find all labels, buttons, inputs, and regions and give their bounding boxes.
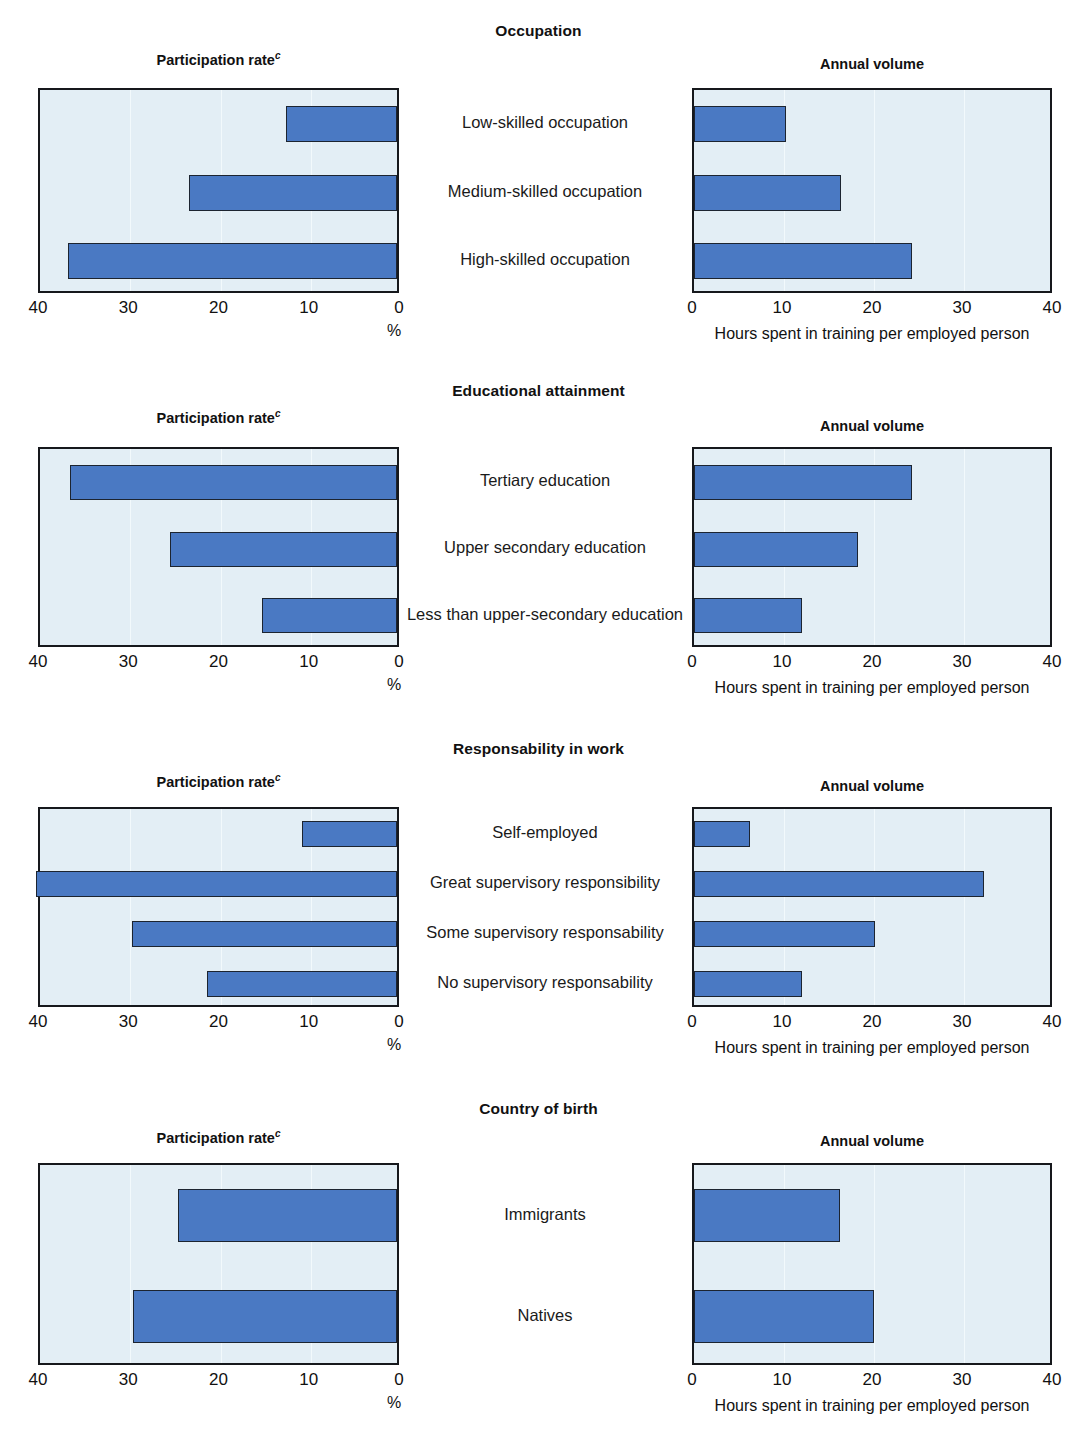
left-x-axis-2: 403020100 xyxy=(38,1012,399,1034)
section-title-3: Country of birth xyxy=(0,1100,1077,1118)
gridline-20 xyxy=(874,1165,875,1363)
bar xyxy=(694,1189,840,1242)
category-label: Some supervisory responsability xyxy=(426,923,664,942)
x-tick-20: 20 xyxy=(863,298,882,318)
bar xyxy=(36,871,397,897)
bar xyxy=(694,465,912,500)
x-tick-40: 40 xyxy=(29,1370,48,1390)
right-axis-caption-1: Hours spent in training per employed per… xyxy=(692,679,1052,697)
left-chart-subtitle-text-2: Participation rate xyxy=(156,774,274,790)
category-label: Less than upper-secondary education xyxy=(407,604,683,623)
x-tick-20: 20 xyxy=(209,652,228,672)
right-x-axis-3: 010203040 xyxy=(692,1370,1052,1392)
left-chart-subtitle-text-3: Participation rate xyxy=(156,1130,274,1146)
gridline-30 xyxy=(130,1165,131,1363)
right-chart-subtitle-0: Annual volume xyxy=(682,56,1062,72)
left-axis-unit-0: % xyxy=(387,322,401,340)
gridline-30 xyxy=(964,809,965,1005)
left-axis-unit-1: % xyxy=(387,676,401,694)
x-tick-40: 40 xyxy=(1043,1012,1062,1032)
gridline-30 xyxy=(964,1165,965,1363)
bar xyxy=(286,106,397,142)
right-chart-subtitle-2: Annual volume xyxy=(682,778,1062,794)
x-tick-10: 10 xyxy=(299,1370,318,1390)
left-chart-subtitle-superscript-1: c xyxy=(275,408,281,419)
category-label: Low-skilled occupation xyxy=(462,113,628,132)
left-axis-unit-3: % xyxy=(387,1394,401,1412)
bar xyxy=(207,971,397,997)
left-x-axis-0: 403020100 xyxy=(38,298,399,320)
x-tick-40: 40 xyxy=(29,1012,48,1032)
x-tick-30: 30 xyxy=(119,1012,138,1032)
right-plot-area-0 xyxy=(692,88,1052,293)
gridline-30 xyxy=(130,809,131,1005)
bar xyxy=(262,598,397,633)
right-plot-area-2 xyxy=(692,807,1052,1007)
bar xyxy=(694,971,802,997)
bar xyxy=(132,921,397,947)
left-plot-area-1 xyxy=(38,447,399,647)
category-label: Great supervisory responsibility xyxy=(430,873,660,892)
section-title-0: Occupation xyxy=(0,22,1077,40)
bar xyxy=(178,1189,397,1242)
x-tick-20: 20 xyxy=(209,1012,228,1032)
x-tick-30: 30 xyxy=(953,1012,972,1032)
bar xyxy=(68,243,397,279)
bar xyxy=(189,175,397,211)
left-x-axis-1: 403020100 xyxy=(38,652,399,674)
bar xyxy=(70,465,397,500)
right-axis-caption-2: Hours spent in training per employed per… xyxy=(692,1039,1052,1057)
x-tick-30: 30 xyxy=(119,652,138,672)
left-chart-subtitle-superscript-3: c xyxy=(275,1128,281,1139)
bar xyxy=(694,175,841,211)
bar xyxy=(694,532,858,567)
bar xyxy=(694,243,912,279)
right-axis-caption-0: Hours spent in training per employed per… xyxy=(692,325,1052,343)
x-tick-40: 40 xyxy=(1043,298,1062,318)
left-axis-unit-2: % xyxy=(387,1036,401,1054)
bar xyxy=(694,1290,874,1343)
x-tick-20: 20 xyxy=(863,652,882,672)
left-plot-area-0 xyxy=(38,88,399,293)
left-chart-subtitle-superscript-2: c xyxy=(275,772,281,783)
left-plot-area-3 xyxy=(38,1163,399,1365)
x-tick-0: 0 xyxy=(687,1012,696,1032)
left-chart-subtitle-0: Participation ratec xyxy=(28,50,409,68)
x-tick-0: 0 xyxy=(687,1370,696,1390)
left-chart-subtitle-1: Participation ratec xyxy=(28,408,409,426)
x-tick-0: 0 xyxy=(394,1012,403,1032)
x-tick-20: 20 xyxy=(863,1012,882,1032)
bar xyxy=(694,821,750,847)
right-x-axis-0: 010203040 xyxy=(692,298,1052,320)
category-label: Medium-skilled occupation xyxy=(448,181,642,200)
x-tick-0: 0 xyxy=(394,1370,403,1390)
left-chart-subtitle-text-1: Participation rate xyxy=(156,410,274,426)
category-label: Self-employed xyxy=(492,823,597,842)
x-tick-0: 0 xyxy=(687,298,696,318)
x-tick-10: 10 xyxy=(773,652,792,672)
x-tick-20: 20 xyxy=(209,1370,228,1390)
gridline-20 xyxy=(874,809,875,1005)
left-chart-subtitle-superscript-0: c xyxy=(275,50,281,61)
right-x-axis-2: 010203040 xyxy=(692,1012,1052,1034)
x-tick-30: 30 xyxy=(119,1370,138,1390)
left-chart-subtitle-3: Participation ratec xyxy=(28,1128,409,1146)
category-label: Tertiary education xyxy=(480,471,610,490)
left-x-axis-3: 403020100 xyxy=(38,1370,399,1392)
x-tick-10: 10 xyxy=(773,298,792,318)
right-axis-caption-3: Hours spent in training per employed per… xyxy=(692,1397,1052,1415)
bar xyxy=(302,821,397,847)
x-tick-10: 10 xyxy=(299,1012,318,1032)
section-title-1: Educational attainment xyxy=(0,382,1077,400)
right-chart-subtitle-1: Annual volume xyxy=(682,418,1062,434)
bar xyxy=(694,598,802,633)
category-label: High-skilled occupation xyxy=(460,249,630,268)
x-tick-10: 10 xyxy=(773,1012,792,1032)
x-tick-10: 10 xyxy=(299,652,318,672)
left-chart-subtitle-text-0: Participation rate xyxy=(156,52,274,68)
x-tick-40: 40 xyxy=(29,652,48,672)
x-tick-40: 40 xyxy=(1043,1370,1062,1390)
bar xyxy=(170,532,397,567)
right-plot-area-3 xyxy=(692,1163,1052,1365)
category-label: Upper secondary education xyxy=(444,538,646,557)
